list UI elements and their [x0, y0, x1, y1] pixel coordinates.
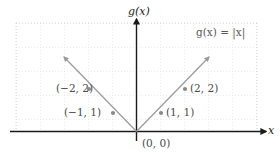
plot-canvas — [0, 0, 280, 165]
point-label-minus1-1: (−1, 1) — [64, 107, 101, 118]
x-axis-label: x — [268, 125, 274, 136]
absolute-value-graph-figure: g(x) x g(x) = |x| (−2, 2) (−1, 1) (1, 1)… — [0, 0, 280, 165]
data-point-marker — [111, 111, 115, 115]
y-axis-label: g(x) — [128, 6, 150, 17]
point-label-1-1: (1, 1) — [166, 107, 194, 118]
data-point-marker — [159, 111, 163, 115]
point-label-origin: (0, 0) — [142, 138, 170, 149]
data-point-marker — [183, 87, 187, 91]
equation-annotation: g(x) = |x| — [196, 27, 245, 38]
point-label-minus2-2: (−2, 2) — [56, 83, 93, 94]
point-label-2-2: (2, 2) — [190, 83, 218, 94]
